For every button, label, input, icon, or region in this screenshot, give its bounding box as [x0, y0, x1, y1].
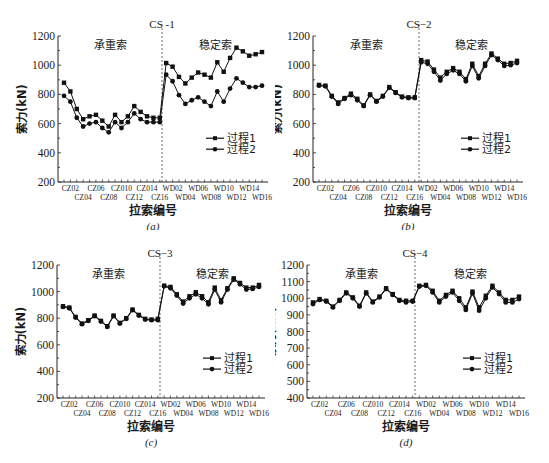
- data-point-circle: [68, 99, 73, 104]
- x-tick-label: WD12: [482, 409, 502, 418]
- data-point-circle: [151, 120, 156, 125]
- data-point-square: [164, 61, 168, 65]
- data-point-square: [68, 89, 72, 93]
- data-point-circle: [495, 58, 500, 63]
- x-tick-label: WD08: [456, 409, 476, 418]
- data-point-circle: [361, 104, 366, 109]
- data-point-circle: [374, 99, 379, 104]
- data-point-circle: [73, 315, 78, 320]
- y-axis-title: 索力(kN): [14, 307, 28, 357]
- series-1: [62, 45, 264, 128]
- data-point-circle: [130, 308, 135, 313]
- y-axis-title: 索力(kN): [275, 307, 278, 357]
- data-point-circle: [145, 120, 150, 125]
- y-tick-label: 1000: [31, 286, 54, 298]
- y-tick-label: 800: [37, 312, 55, 324]
- x-tick-label: CZ04: [330, 193, 347, 202]
- legend-label: 过程2: [484, 363, 513, 376]
- data-point-circle: [209, 104, 214, 109]
- data-point-circle: [508, 63, 513, 68]
- data-point-circle: [99, 319, 104, 324]
- chart-panel-d: 400500600700800900100011001200CZ02CZ06CZ…: [275, 230, 549, 463]
- data-point-circle: [410, 299, 415, 304]
- data-point-square: [177, 75, 181, 79]
- data-point-circle: [162, 284, 167, 289]
- data-point-circle: [132, 111, 137, 116]
- y-tick-label: 1200: [32, 30, 55, 42]
- data-point-square: [138, 110, 142, 114]
- x-tick-label: WD12: [481, 193, 501, 202]
- data-point-circle: [387, 85, 392, 90]
- y-tick-label: 1200: [281, 259, 304, 271]
- data-point-square: [234, 45, 238, 49]
- y-tick-label: 400: [287, 392, 305, 404]
- data-point-circle: [92, 314, 97, 319]
- chart-d: 400500600700800900100011001200CZ02CZ06CZ…: [275, 230, 549, 463]
- data-point-circle: [136, 313, 141, 318]
- data-point-square: [62, 81, 66, 85]
- x-tick-label: CZ12: [124, 409, 141, 418]
- data-point-circle: [510, 300, 515, 305]
- legend-marker-circle: [210, 367, 215, 372]
- legend-marker-circle: [213, 147, 218, 152]
- figure-caption: (a): [147, 220, 160, 230]
- data-point-circle: [240, 80, 245, 85]
- data-point-circle: [250, 287, 255, 292]
- data-point-square: [113, 113, 117, 117]
- x-tick-label: CZ014: [137, 184, 158, 193]
- data-point-square: [209, 75, 213, 79]
- data-point-circle: [206, 302, 211, 307]
- y-tick-label: 400: [293, 147, 311, 159]
- figure-caption: (c): [145, 436, 158, 449]
- x-tick-label: CZ010: [111, 184, 132, 193]
- y-tick-label: 1100: [281, 276, 304, 288]
- x-tick-label: WD16: [252, 193, 272, 202]
- x-tick-label: CZ08: [100, 193, 117, 202]
- x-tick-label: CZ08: [99, 409, 116, 418]
- data-point-circle: [183, 101, 188, 106]
- x-tick-label: WD02: [416, 400, 436, 409]
- data-point-circle: [515, 61, 520, 66]
- data-point-circle: [149, 318, 154, 323]
- y-tick-label: 800: [287, 326, 305, 338]
- data-point-circle: [503, 300, 508, 305]
- data-point-circle: [337, 298, 342, 303]
- x-axis-title: 拉索编号: [384, 203, 432, 218]
- data-point-circle: [200, 296, 205, 301]
- data-point-circle: [231, 277, 236, 282]
- x-tick-label: WD06: [186, 400, 206, 409]
- x-tick-label: WD06: [443, 400, 463, 409]
- y-tick-label: 200: [38, 176, 56, 188]
- region-label-stabilizing-cable: 稳定索: [199, 38, 232, 52]
- data-point-circle: [212, 287, 217, 292]
- data-point-square: [145, 114, 149, 118]
- data-point-circle: [111, 314, 116, 319]
- data-point-square: [215, 60, 219, 64]
- data-point-circle: [412, 96, 417, 101]
- data-point-square: [107, 124, 111, 128]
- y-tick-label: 200: [293, 176, 311, 188]
- legend: 过程1过程2: [206, 132, 256, 156]
- x-tick-label: CZ16: [149, 409, 166, 418]
- data-point-circle: [349, 93, 354, 98]
- data-point-square: [126, 114, 130, 118]
- data-point-circle: [61, 304, 66, 309]
- chart-panel-c: 20040060080010001200CZ02CZ06CZ010CZ014WD…: [0, 230, 275, 463]
- data-point-square: [196, 70, 200, 74]
- data-point-circle: [350, 296, 355, 301]
- data-point-circle: [424, 283, 429, 288]
- x-tick-label: WD08: [456, 193, 476, 202]
- data-point-circle: [189, 98, 194, 103]
- y-axis-title: 索力(kN): [15, 84, 29, 134]
- data-point-circle: [368, 93, 373, 98]
- x-tick-label: CZ02: [311, 400, 328, 409]
- data-point-square: [221, 70, 225, 74]
- data-point-circle: [177, 93, 182, 98]
- x-tick-label: CZ06: [342, 184, 359, 193]
- data-point-circle: [470, 291, 475, 296]
- data-point-circle: [118, 321, 123, 326]
- data-point-circle: [187, 296, 192, 301]
- data-point-circle: [193, 292, 198, 297]
- x-tick-label: CZ014: [389, 400, 410, 409]
- data-point-circle: [400, 95, 405, 100]
